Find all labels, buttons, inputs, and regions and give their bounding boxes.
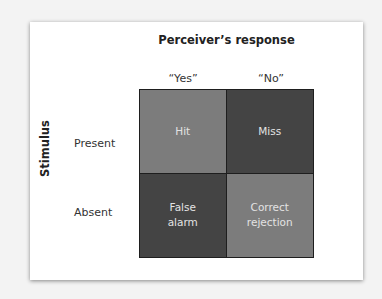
cell-hit-label: Hit bbox=[175, 124, 190, 139]
cell-correct-rejection: Correct rejection bbox=[227, 174, 314, 258]
cell-false-alarm-label: False alarm bbox=[168, 200, 198, 230]
cell-false-alarm: False alarm bbox=[140, 174, 227, 258]
column-label-yes: “Yes” bbox=[139, 72, 227, 85]
signal-detection-matrix-card: Perceiver’s response “Yes” “No” Stimulus… bbox=[30, 22, 363, 280]
matrix-title: Perceiver’s response bbox=[30, 33, 363, 47]
cell-miss: Miss bbox=[227, 90, 314, 174]
outcome-matrix: Hit Miss False alarm Correct rejection bbox=[139, 89, 314, 258]
stimulus-axis-label: Stimulus bbox=[38, 120, 52, 177]
cell-miss-label: Miss bbox=[258, 124, 281, 139]
column-label-no: “No” bbox=[227, 72, 315, 85]
row-label-present: Present bbox=[74, 137, 115, 150]
row-label-absent: Absent bbox=[74, 206, 112, 219]
cell-hit: Hit bbox=[140, 90, 227, 174]
cell-correct-rejection-label: Correct rejection bbox=[247, 200, 293, 230]
